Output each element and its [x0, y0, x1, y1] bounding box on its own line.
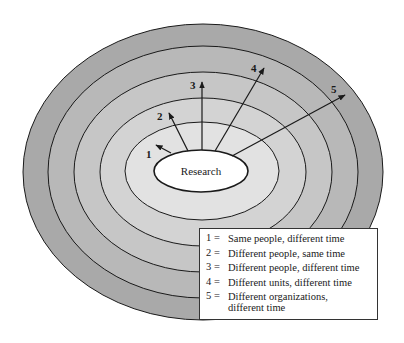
arrow-2-label: 2: [157, 110, 163, 122]
legend-text: Different people, different time: [228, 262, 359, 273]
legend-number: 3 =: [206, 262, 228, 273]
legend-number: 4 =: [206, 277, 228, 288]
research-label: Research: [181, 165, 222, 177]
arrow-5-label: 5: [331, 83, 337, 95]
legend-item-4: 4 = Different units, different time: [206, 277, 373, 288]
legend-item-1: 1 = Same people, different time: [206, 233, 373, 244]
legend-text: Different organizations, different time: [228, 291, 348, 313]
legend-number: 1 =: [206, 233, 228, 244]
legend-item-3: 3 = Different people, different time: [206, 262, 373, 273]
legend-item-2: 2 = Different people, same time: [206, 248, 373, 259]
legend-box: 1 = Same people, different time 2 = Diff…: [199, 228, 378, 320]
arrow-4-label: 4: [251, 62, 257, 74]
legend-text: Different units, different time: [228, 277, 352, 288]
legend-text: Different people, same time: [228, 248, 345, 259]
arrow-3-label: 3: [190, 79, 196, 91]
legend-number: 5 =: [206, 291, 228, 313]
legend-item-5: 5 = Different organizations, different t…: [206, 291, 373, 313]
legend-number: 2 =: [206, 248, 228, 259]
legend-text: Same people, different time: [228, 233, 344, 244]
arrow-1-label: 1: [146, 148, 152, 160]
